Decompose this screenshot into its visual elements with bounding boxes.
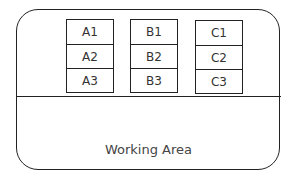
cell-c3: C3 <box>196 69 242 93</box>
cell-a2: A2 <box>67 44 113 68</box>
cell-c1: C1 <box>196 21 242 45</box>
column-b: B1 B2 B3 <box>130 19 178 93</box>
cell-b3: B3 <box>131 68 177 92</box>
column-a: A1 A2 A3 <box>66 19 114 93</box>
cell-c2: C2 <box>196 45 242 69</box>
cell-a1: A1 <box>67 20 113 44</box>
working-area-label: Working Area <box>16 142 281 157</box>
column-c: C1 C2 C3 <box>195 20 243 94</box>
cell-a3: A3 <box>67 68 113 92</box>
section-divider <box>16 96 281 97</box>
cell-b1: B1 <box>131 20 177 44</box>
cell-b2: B2 <box>131 44 177 68</box>
